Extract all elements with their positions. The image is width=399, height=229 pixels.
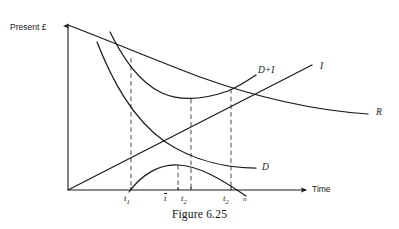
figure-background	[0, 0, 399, 229]
curve-label-r: R	[376, 108, 382, 118]
figure-caption: Figure 6.25	[0, 208, 399, 220]
tick-label-t2-a-sub: 2	[184, 198, 187, 205]
figure-canvas	[0, 0, 399, 229]
curve-label-i: I	[320, 62, 323, 72]
curve-label-d: D	[262, 163, 269, 173]
tick-label-n: n	[243, 196, 247, 203]
x-axis-label: Time	[312, 185, 331, 194]
tick-label-t1-sub: 1	[127, 198, 130, 205]
y-axis-label: Present £	[10, 23, 46, 32]
tick-label-t2-b-sub: 2	[226, 198, 229, 205]
overbar-glyph	[164, 193, 167, 194]
tick-label-t2-b: t2	[223, 194, 229, 205]
curve-label-d-plus-i: D+I	[258, 66, 274, 76]
tick-label-t2-a: t2	[181, 194, 187, 205]
tick-label-t-bar-base: t	[164, 193, 167, 203]
tick-label-t1: t1	[124, 194, 130, 205]
tick-label-t-bar: t	[164, 194, 167, 203]
